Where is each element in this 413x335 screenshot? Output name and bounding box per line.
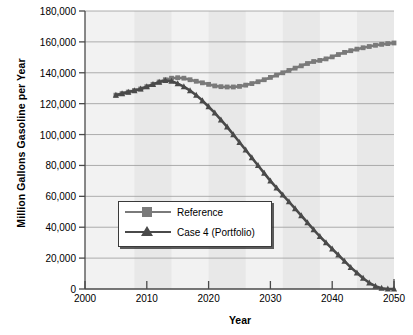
gasoline-consumption-line-chart: Million Gallons Gasoline per Year Year 0… <box>0 0 413 335</box>
plot-area <box>0 0 413 335</box>
chart-legend: Reference Case 4 (Portfolio) <box>118 201 272 247</box>
legend-item-reference: Reference <box>119 202 271 222</box>
legend-item-case4: Case 4 (Portfolio) <box>119 222 271 242</box>
triangle-marker-icon <box>125 225 171 239</box>
legend-label-case4: Case 4 (Portfolio) <box>171 227 255 238</box>
square-marker-icon <box>125 205 171 219</box>
legend-label-reference: Reference <box>171 207 223 218</box>
